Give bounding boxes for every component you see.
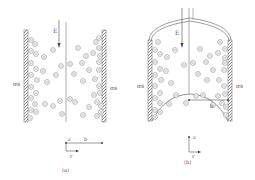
radius-label-b: b — [210, 103, 213, 109]
left-charge-label-b: σs — [137, 82, 144, 89]
radius-label-a: b — [84, 136, 87, 142]
e-field-label: E — [53, 27, 57, 34]
left-wall-b — [148, 40, 152, 121]
ions-b — [153, 40, 229, 120]
nanochannel-diagram: E σs σs b — [0, 0, 255, 180]
left-charge-label: σs — [13, 80, 20, 87]
right-charge-label-b: σs — [236, 82, 243, 89]
right-charge-label: σs — [110, 84, 117, 91]
axis-r-label-a: r — [70, 153, 73, 159]
caption-b: (b) — [184, 159, 191, 165]
radius-dimension-a — [65, 142, 103, 144]
panel-b: E σs σs b — [137, 8, 243, 165]
e-field-arrow-b — [181, 8, 184, 48]
axis-r-label-b: r — [192, 153, 195, 159]
axis-z-label-b: z — [193, 134, 196, 140]
e-field-arrow — [58, 20, 61, 48]
e-field-label-b: E — [175, 29, 179, 36]
right-wall — [102, 30, 106, 122]
right-wall-b — [228, 40, 232, 121]
axis-z-label-a: z — [68, 136, 71, 142]
axes-a — [66, 143, 79, 152]
caption-a: (a) — [62, 167, 69, 173]
left-wall — [24, 30, 28, 122]
panel-a: E σs σs b — [13, 20, 117, 173]
ions-a — [28, 36, 104, 121]
